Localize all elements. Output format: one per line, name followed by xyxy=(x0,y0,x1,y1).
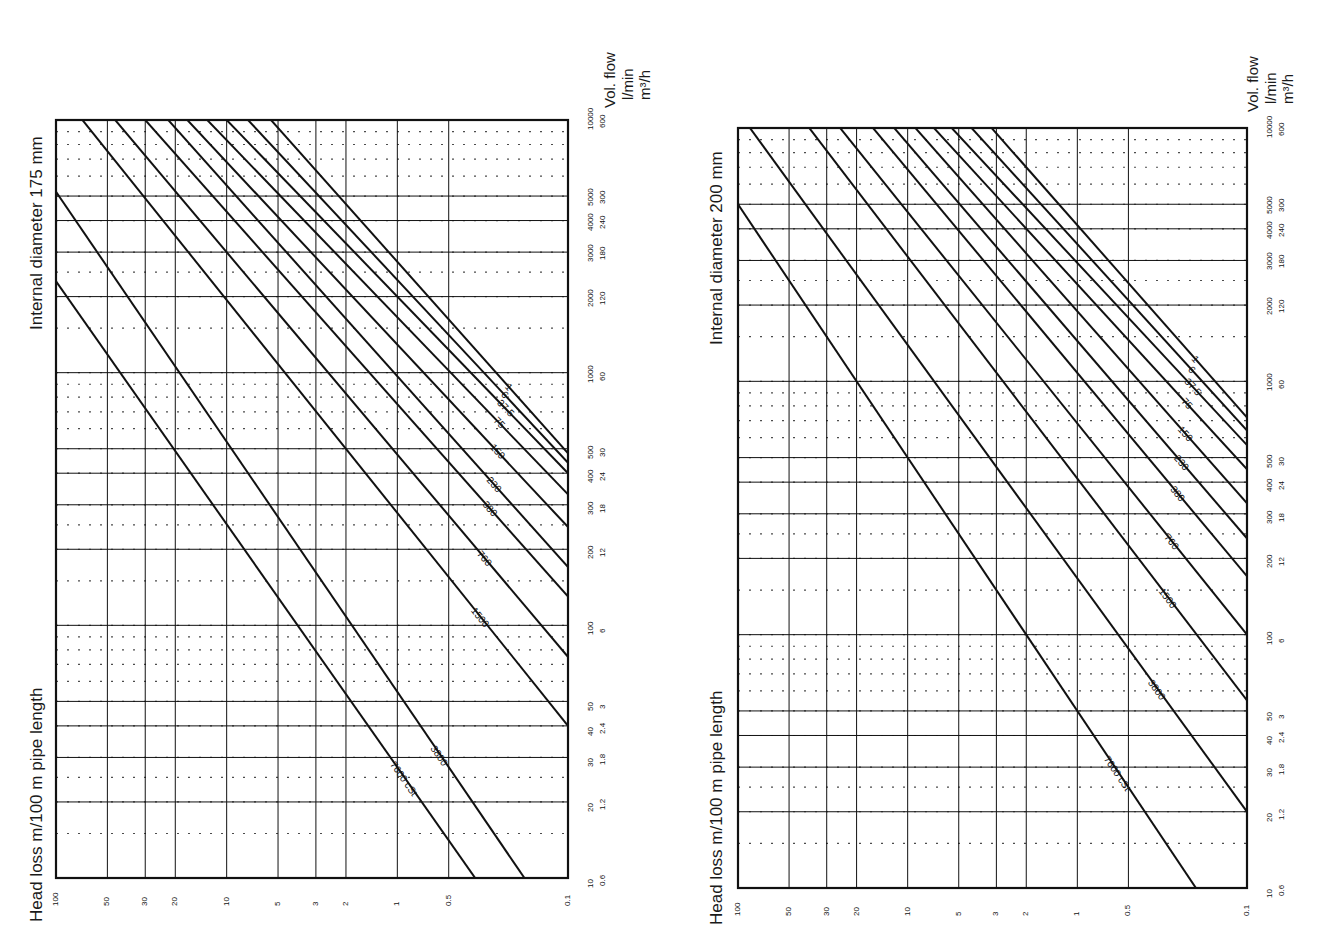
x-tick-label: 0.1 xyxy=(1242,905,1251,916)
x-tick-label: 2 xyxy=(1021,912,1030,916)
flow-tick-lmin: 3000 xyxy=(1265,253,1274,271)
flow-tick-m3h: 240 xyxy=(1277,223,1286,236)
curve-37-5 xyxy=(361,0,1317,934)
x-tick-label: 3 xyxy=(991,912,1000,916)
flow-tick-m3h: 18 xyxy=(1277,513,1286,522)
flow-tick-lmin: 200 xyxy=(1265,555,1274,568)
flow-tick-lmin: 30 xyxy=(1265,768,1274,777)
curve-1 xyxy=(481,0,1317,934)
flow-tick-m3h: 0.6 xyxy=(1277,885,1286,896)
chart-panel-200mm: 1637.575150230380760150038007600 cSt Int… xyxy=(0,0,1317,934)
x-axis-label: Head loss m/100 m pipe length xyxy=(707,691,727,925)
flow-tick-m3h: 30 xyxy=(1277,457,1286,466)
flow-tick-lmin: 40 xyxy=(1265,737,1274,746)
flow-tick-lmin: 300 xyxy=(1265,510,1274,523)
flow-tick-m3h: 300 xyxy=(1277,199,1286,212)
flow-tick-m3h: 600 xyxy=(1277,123,1286,136)
x-tick-label: 20 xyxy=(852,907,861,916)
flow-tick-lmin: 5000 xyxy=(1265,196,1274,214)
x-tick-label: 0.5 xyxy=(1123,905,1132,916)
x-tick-label: 10 xyxy=(903,907,912,916)
flow-tick-m3h: 120 xyxy=(1277,300,1286,313)
flow-tick-m3h: 24 xyxy=(1277,481,1286,490)
flow-tick-lmin: 2000 xyxy=(1265,297,1274,315)
curve-75 xyxy=(308,0,1317,934)
x-tick-label: 5 xyxy=(954,912,963,916)
flow-tick-lmin: 400 xyxy=(1265,479,1274,492)
flow-tick-m3h: 1.8 xyxy=(1277,764,1286,775)
flow-tick-m3h: 6 xyxy=(1277,638,1286,642)
flow-tick-lmin: 4000 xyxy=(1265,221,1274,239)
flow-tick-m3h: 60 xyxy=(1277,380,1286,389)
flow-unit-lmin: l/min xyxy=(1263,72,1279,104)
flow-tick-lmin: 100 xyxy=(1265,631,1274,644)
x-tick-label: 100 xyxy=(733,903,742,916)
x-tick-label: 1 xyxy=(1072,912,1081,916)
curve-1500 xyxy=(0,0,1317,934)
flow-tick-m3h: 1.2 xyxy=(1277,809,1286,820)
curve-230 xyxy=(189,0,1317,934)
flow-tick-lmin: 500 xyxy=(1265,454,1274,467)
flow-axis-label: Vol. flow xyxy=(1245,56,1261,112)
chart-plot-200mm: 1637.575150230380760150038007600 cSt xyxy=(0,0,1317,934)
flow-tick-lmin: 1000 xyxy=(1265,374,1274,392)
curve-7600-cst xyxy=(0,0,1317,934)
flow-unit-m3h: m³/h xyxy=(1280,74,1296,104)
flow-tick-m3h: 2.4 xyxy=(1277,732,1286,743)
flow-tick-m3h: 3 xyxy=(1277,714,1286,718)
chart-title: Internal diameter 200 mm xyxy=(707,151,727,345)
x-tick-label: 30 xyxy=(822,907,831,916)
flow-tick-lmin: 50 xyxy=(1265,712,1274,721)
flow-tick-m3h: 180 xyxy=(1277,255,1286,268)
flow-tick-lmin: 10000 xyxy=(1265,116,1274,138)
flow-tick-lmin: 20 xyxy=(1265,813,1274,822)
flow-tick-lmin: 10 xyxy=(1265,889,1274,898)
flow-tick-m3h: 12 xyxy=(1277,557,1286,566)
x-tick-label: 50 xyxy=(784,907,793,916)
curve-3800 xyxy=(0,0,1317,934)
